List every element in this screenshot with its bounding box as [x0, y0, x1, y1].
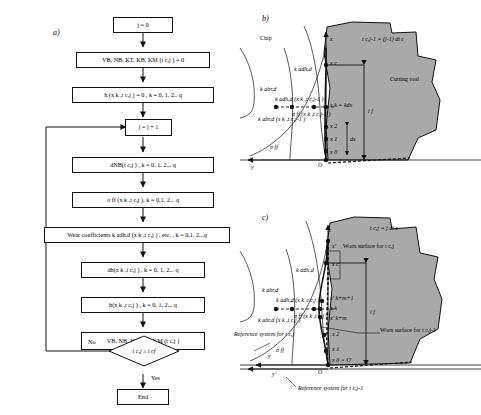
xk-m1-label-c: x' k+m+1	[330, 295, 354, 301]
cutting-tool-body	[324, 22, 440, 160]
curve-sigmaff-point-label-c: σ ff (x k ,t c,j )	[294, 313, 328, 319]
cutting-tool-label: Cutting tool	[390, 76, 419, 82]
branch-yes-label: Yes	[151, 374, 160, 381]
chip-label: Chip	[260, 35, 272, 41]
flowchart-node-init-j: j = 0	[113, 17, 173, 33]
flowchart-node-h: h(x k ,t c,j ) , k = 0, 1, 2... q	[81, 297, 205, 313]
sigma-ff-label-b: σ ff	[270, 144, 278, 150]
flowchart-node-init-wear-measures: VB, NB, KT, KB, KM (t c,j ) = 0	[76, 52, 210, 68]
axis-y-label-c: y	[268, 353, 271, 359]
origin-label-b: O	[318, 162, 322, 168]
flowchart-node-increment-j: j = j + 1	[125, 119, 172, 136]
panel-b-label: b)	[262, 14, 269, 23]
reference-current-label: Reference system for t c,j	[234, 331, 294, 337]
x0-label-b: x 0	[330, 149, 337, 155]
x2-label-b: x 2	[330, 123, 337, 129]
panel-b-diagram: b) Chip Cutting tool t c,j-1 = (j-1) dt …	[240, 8, 481, 208]
branch-no-label: No	[88, 338, 96, 345]
xk-m-label-c: x' k+m	[330, 315, 347, 321]
xc-label-c: x c	[332, 261, 339, 267]
sigma-ff-label-c: σ ff	[276, 347, 284, 353]
curve-kabrd-label-b: k abr,d	[260, 86, 276, 92]
lf-label-b: l f	[368, 108, 373, 114]
time-label-c: t c,j = j dt c	[370, 225, 398, 231]
curve-kadhd-point-label-b: k adh,d (x k ,t c,j-1 )	[275, 96, 323, 102]
axis-y-prime-label-c: y'	[272, 371, 276, 377]
curve-kadhd-point-label-c: k adh,d (x k ,t c,j )	[276, 297, 319, 303]
xc-label-b: x c	[330, 60, 337, 66]
x2-label-c: x 2	[332, 331, 339, 337]
time-label-b: t c,j-1 = (j-1) dt c	[362, 36, 404, 42]
x0-origin-label-c: x 0 = O'	[332, 357, 352, 363]
flowchart-node-wear-coefficients: Wear coefficients k adh,d (x k ,t c,j ) …	[44, 227, 230, 243]
flowchart-decision-time-check: t c,j ≥ t cf	[109, 336, 179, 366]
flowchart-node-init-h: h (x k ,t c,j ) = 0 , k = 0, 1, 2.. q	[72, 87, 214, 103]
x1-label-c: x 1	[332, 346, 339, 352]
node-xk-label-b: x k = kdx	[330, 102, 352, 108]
axis-x-prime-label-c: x'	[332, 243, 336, 249]
xk-label-c: x k	[330, 305, 337, 311]
flowchart-node-end: End	[117, 389, 169, 405]
axis-x-label-b: x	[330, 36, 333, 42]
reference-previous-label: Reference system for t c,j-1	[298, 385, 363, 391]
panel-c-graphics	[240, 205, 481, 415]
curve-kadhd-label-c: k adh,d	[296, 267, 314, 273]
cutting-tool-body-c	[326, 217, 442, 365]
panel-c-diagram: c) t c,j = j dt c x x' Worn surface for …	[240, 205, 481, 415]
origin-label-c: O	[318, 369, 322, 375]
lf-label-c: l f	[370, 309, 375, 315]
flowchart-node-dh: dh(x k ,t c,j ) , k = 0, 1, 2... q	[81, 262, 205, 278]
flowchart-node-dnb: dNB(t c,j ) , k = 0, 1, 2... q	[72, 157, 214, 173]
panel-b-graphics	[240, 8, 481, 208]
worn-surface-previous-label: Worn surface for t c,j-1	[380, 327, 436, 333]
dx-label-b: dx	[350, 136, 356, 142]
figure-root: a) j = 0 VB, N	[0, 0, 481, 415]
decision-label: t c,j ≥ t cf	[109, 336, 179, 366]
axis-y-label-b: y	[251, 164, 254, 170]
axis-x-label-c: x	[328, 227, 331, 233]
x1-label-b: x 1	[330, 136, 337, 142]
curve-kabrd-label-c: k abr,d	[262, 287, 278, 293]
panel-a-flowchart: a) j = 0 VB, N	[0, 0, 240, 415]
curve-kadhd-label-b: k adh,d	[294, 66, 312, 72]
worn-surface-current-label: Worn surface for t c,j	[343, 243, 394, 249]
flowchart-node-sigma-ff: σ ff (x k ,t c,j ), k = 0,1, 2... q	[72, 192, 214, 208]
curve-sigmaff-point-label-b: σ ff (x k ,t c,j-1 )	[292, 111, 331, 117]
panel-c-label: c)	[262, 213, 268, 222]
